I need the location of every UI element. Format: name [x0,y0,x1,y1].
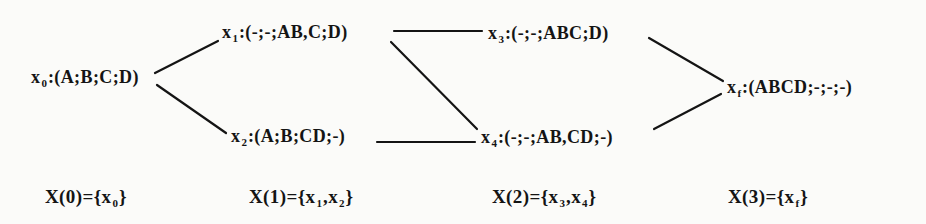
node-x1-state: :(-;-;AB,C;D) [239,22,348,42]
stage-0-subscript: 0 [113,198,119,209]
stage-2-subscript-b: 4 [582,198,588,209]
node-x0-name: x [31,67,40,87]
stage-1-subscript-b: 2 [339,198,345,209]
edge-x4-xf [654,94,721,129]
node-x1: x1:(-;-;AB,C;D) [222,23,348,41]
node-xf: xf:(ABCD;-;-;-) [727,78,852,96]
node-x0-subscript: 0 [41,78,47,89]
node-xf-state: :(ABCD;-;-;-) [742,77,852,97]
node-x4: x4:(-;-;AB,CD;-) [481,128,613,146]
stage-label-x2-set: X(2)={x3,x4} [492,187,596,206]
node-x4-state: :(-;-;AB,CD;-) [498,127,613,147]
node-x3-state: :(-;-;ABC;D) [505,23,609,43]
node-x0-state: :(A;B;C;D) [48,67,139,87]
edge-x0-x2 [157,85,226,133]
node-x2-name: x [231,126,240,146]
stage-label-x1-set: X(1)={x1,x2} [249,187,353,206]
node-x0: x0:(A;B;C;D) [31,68,139,86]
node-x1-name: x [222,22,231,42]
edge-x1-x4 [391,42,477,129]
stage-label-x0-set: X(0)={x0} [45,187,127,206]
node-xf-subscript: f [737,88,741,99]
stage-label-x3-set: X(3)={xf} [728,187,808,206]
stage-0-text: X(0)={x [45,186,112,207]
node-x4-name: x [481,127,490,147]
stage-3-subscript: f [796,198,800,209]
stage-1-subscript-a: 1 [317,198,323,209]
node-x2-subscript: 2 [241,137,247,148]
stage-1-mid: ,x [323,186,338,207]
node-xf-name: x [727,77,736,97]
node-x1-subscript: 1 [232,33,238,44]
node-x4-subscript: 4 [491,138,497,149]
stage-3-text: X(3)={x [728,186,795,207]
edge-x0-x1 [155,41,218,73]
stage-2-close: } [589,186,597,207]
node-x3-name: x [488,23,497,43]
stage-2-subscript-a: 3 [560,198,566,209]
edge-x3-xf [649,38,723,81]
stage-1-close: } [346,186,354,207]
stage-1-text: X(1)={x [249,186,316,207]
node-x3-subscript: 3 [498,34,504,45]
node-x2-state: :(A;B;CD;-) [248,126,345,146]
node-x2: x2:(A;B;CD;-) [231,127,345,145]
stage-2-mid: ,x [566,186,581,207]
stage-2-text: X(2)={x [492,186,559,207]
stage-0-close: } [119,186,127,207]
state-graph-figure: x0:(A;B;C;D) x1:(-;-;AB,C;D) x2:(A;B;CD;… [0,0,926,224]
stage-3-close: } [800,186,808,207]
node-x3: x3:(-;-;ABC;D) [488,24,609,42]
